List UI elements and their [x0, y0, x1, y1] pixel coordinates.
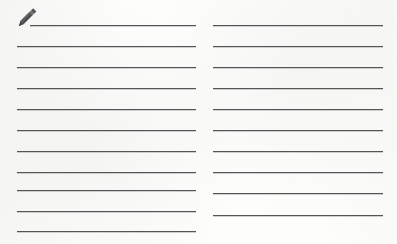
right-rule-3: [213, 67, 383, 68]
note-sheet: [0, 0, 397, 244]
left-rule-4: [17, 88, 196, 89]
left-rule-5: [17, 109, 196, 110]
left-rule-7: [17, 151, 196, 152]
right-rule-9: [213, 193, 383, 194]
left-rule-3: [17, 67, 196, 68]
left-rule-11: [17, 231, 196, 232]
right-rule-7: [213, 151, 383, 152]
paper-grain-overlay: [0, 0, 397, 244]
right-rule-1: [213, 25, 383, 26]
right-rule-5: [213, 109, 383, 110]
left-rule-1: [30, 25, 196, 26]
left-rule-2: [17, 46, 196, 47]
left-rule-8: [17, 172, 196, 173]
left-rule-6: [17, 130, 196, 131]
right-rule-2: [213, 46, 383, 47]
right-rule-8: [213, 172, 383, 173]
left-rule-9: [17, 190, 196, 191]
left-rule-10: [17, 211, 196, 212]
right-rule-6: [213, 130, 383, 131]
right-rule-4: [213, 88, 383, 89]
right-rule-10: [213, 215, 383, 216]
pencil-icon: [17, 7, 38, 27]
